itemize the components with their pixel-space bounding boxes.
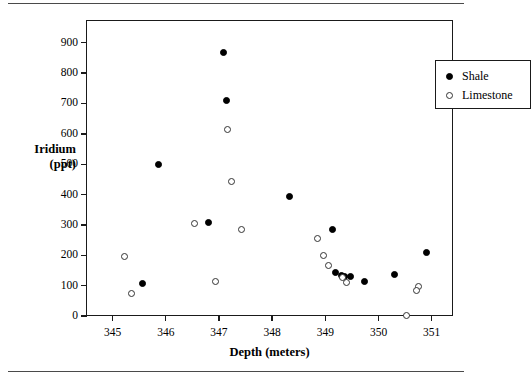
y-tick-label: 900 [61, 37, 78, 49]
data-point-shale [220, 49, 227, 56]
data-point-limestone [314, 235, 321, 242]
data-point-shale [223, 97, 230, 104]
legend-item-limestone: Limestone [446, 86, 513, 104]
x-tick-label: 345 [88, 327, 138, 339]
data-point-limestone [403, 312, 410, 319]
bottom-divider-rule [8, 371, 464, 372]
data-point-shale [423, 249, 430, 256]
y-tick-label: 0 [72, 310, 78, 322]
data-point-limestone [191, 220, 198, 227]
legend-label-shale: Shale [462, 70, 489, 82]
y-tick-label: 400 [61, 189, 78, 201]
x-axis-title: Depth (meters) [86, 345, 453, 360]
data-point-limestone [228, 178, 235, 185]
data-point-shale [329, 226, 336, 233]
data-point-shale [361, 278, 368, 285]
y-tick-label: 800 [61, 67, 78, 79]
data-point-limestone [212, 278, 219, 285]
data-point-limestone [343, 279, 350, 286]
data-point-shale [205, 219, 212, 226]
x-tick-label: 349 [300, 327, 350, 339]
y-tick-label: 600 [61, 128, 78, 140]
data-point-shale [391, 271, 398, 278]
data-point-limestone [121, 253, 128, 260]
y-tick-label: 200 [61, 249, 78, 261]
legend-box: Shale Limestone [435, 60, 531, 109]
y-axis-title-line1: Iridium [4, 142, 76, 157]
data-point-shale [286, 193, 293, 200]
data-point-limestone [413, 287, 420, 294]
data-point-limestone [128, 290, 135, 297]
data-point-shale [139, 280, 146, 287]
data-point-limestone [320, 252, 327, 259]
plot-area: Shale Limestone [86, 20, 453, 316]
data-point-limestone [224, 126, 231, 133]
filled-circle-icon [446, 73, 453, 80]
x-tick-label: 351 [407, 327, 457, 339]
x-tick-label: 348 [247, 327, 297, 339]
data-point-shale [155, 161, 162, 168]
open-circle-icon [446, 92, 453, 99]
y-tick-label: 500 [61, 158, 78, 170]
y-tick-label: 300 [61, 219, 78, 231]
legend-label-limestone: Limestone [462, 89, 513, 101]
x-tick-label: 350 [354, 327, 404, 339]
y-tick-label: 100 [61, 280, 78, 292]
y-tick-label: 700 [61, 97, 78, 109]
data-point-limestone [238, 226, 245, 233]
data-point-limestone [325, 262, 332, 269]
legend-item-shale: Shale [446, 67, 489, 85]
x-tick-label: 346 [141, 327, 191, 339]
x-tick-label: 347 [194, 327, 244, 339]
top-divider-rule [8, 3, 464, 4]
